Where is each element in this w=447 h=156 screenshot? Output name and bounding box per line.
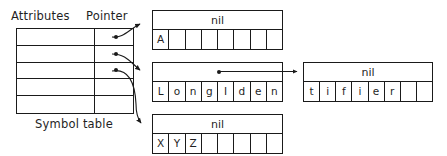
char-cell: g bbox=[202, 82, 218, 101]
block-cell-row: t i f i e r bbox=[304, 82, 432, 101]
symbol-table-cell-pointer bbox=[95, 46, 133, 62]
table-row bbox=[17, 79, 133, 96]
char-cell: f bbox=[336, 82, 352, 101]
symbol-table-cell-pointer bbox=[95, 63, 133, 79]
string-block-tifier: nil t i f i e r bbox=[303, 62, 433, 102]
char-cell: d bbox=[234, 82, 250, 101]
table-row bbox=[17, 96, 133, 113]
char-cell: I bbox=[218, 82, 234, 101]
pointer-dot-icon bbox=[217, 70, 221, 74]
char-cell bbox=[251, 134, 267, 153]
char-cell bbox=[218, 30, 234, 49]
char-cell: r bbox=[385, 82, 401, 101]
symbol-table-cell-attributes bbox=[17, 79, 95, 95]
char-cell: o bbox=[169, 82, 185, 101]
table-row bbox=[17, 46, 133, 63]
char-cell: Y bbox=[169, 134, 185, 153]
symbol-table-caption: Symbol table bbox=[35, 119, 113, 131]
table-row bbox=[17, 29, 133, 46]
nil-label: nil bbox=[211, 119, 224, 130]
char-cell: t bbox=[304, 82, 320, 101]
string-table-diagram: Attributes Pointer Symbol table bbox=[0, 0, 447, 156]
string-block-a: nil A bbox=[152, 10, 283, 50]
block-cell-row: L o n g I d e n bbox=[153, 82, 282, 101]
char-cell bbox=[401, 82, 417, 101]
nil-label: nil bbox=[211, 15, 224, 26]
char-cell: n bbox=[267, 82, 282, 101]
char-cell: Z bbox=[186, 134, 202, 153]
symbol-table bbox=[16, 28, 134, 114]
char-cell: i bbox=[320, 82, 336, 101]
char-cell bbox=[202, 134, 218, 153]
symbol-table-cell-pointer bbox=[95, 79, 133, 95]
block-header-pointer bbox=[153, 63, 282, 82]
block-cell-row: X Y Z bbox=[153, 134, 282, 153]
char-cell bbox=[218, 134, 234, 153]
symbol-table-cell-attributes bbox=[17, 63, 95, 79]
pointer-column-label: Pointer bbox=[86, 11, 128, 23]
nil-label: nil bbox=[361, 67, 374, 78]
block-header-nil: nil bbox=[153, 115, 282, 134]
symbol-table-cell-attributes bbox=[17, 29, 95, 45]
char-cell bbox=[267, 134, 282, 153]
char-cell bbox=[186, 30, 202, 49]
char-cell bbox=[234, 30, 250, 49]
symbol-table-cell-pointer bbox=[95, 29, 133, 45]
char-cell: e bbox=[369, 82, 385, 101]
char-cell: e bbox=[251, 82, 267, 101]
string-block-xyz: nil X Y Z bbox=[152, 114, 283, 154]
char-cell: A bbox=[153, 30, 169, 49]
char-cell bbox=[169, 30, 185, 49]
char-cell: X bbox=[153, 134, 169, 153]
table-row bbox=[17, 63, 133, 80]
block-cell-row: A bbox=[153, 30, 282, 49]
block-header-nil: nil bbox=[153, 11, 282, 30]
symbol-table-cell-pointer bbox=[95, 96, 133, 113]
pointer-dot-icon bbox=[114, 35, 118, 39]
char-cell bbox=[234, 134, 250, 153]
symbol-table-cell-attributes bbox=[17, 46, 95, 62]
attributes-column-label: Attributes bbox=[11, 11, 70, 23]
pointer-dot-icon bbox=[114, 52, 118, 56]
char-cell: L bbox=[153, 82, 169, 101]
char-cell bbox=[267, 30, 282, 49]
char-cell bbox=[251, 30, 267, 49]
symbol-table-cell-attributes bbox=[17, 96, 95, 113]
char-cell bbox=[417, 82, 432, 101]
pointer-dot-icon bbox=[114, 68, 118, 72]
block-header-nil: nil bbox=[304, 63, 432, 82]
string-block-longiden: L o n g I d e n bbox=[152, 62, 283, 102]
char-cell: n bbox=[186, 82, 202, 101]
char-cell: i bbox=[352, 82, 368, 101]
char-cell bbox=[202, 30, 218, 49]
